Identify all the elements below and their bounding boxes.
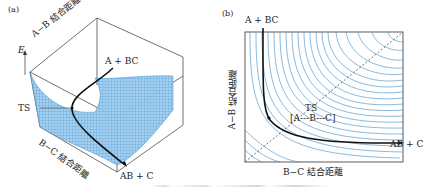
panel-a-product-label: AB + C xyxy=(120,172,153,181)
panel-a-reactant-label: A + BC xyxy=(105,57,138,66)
panel-b-contours xyxy=(245,28,404,162)
panel-b-reactant-label: A + BC xyxy=(245,16,278,25)
panel-b-product-label: AB + C xyxy=(390,140,423,149)
panel-b-tag: (b) xyxy=(222,10,233,18)
energy-axis-label: E xyxy=(18,46,25,55)
panel-b-ts-complex-label: [A---B---C] xyxy=(290,114,335,123)
panel-a-ts-label: TS xyxy=(18,104,30,113)
panel-b-bc-axis-label: B−C 結合距離 xyxy=(283,168,343,177)
panel-b-ts-label: TS xyxy=(305,104,317,113)
panel-a-tag: (a) xyxy=(8,6,19,14)
cropped-caption xyxy=(150,184,330,189)
panel-b-ab-axis-label: A−B 結合距離 xyxy=(228,70,237,130)
